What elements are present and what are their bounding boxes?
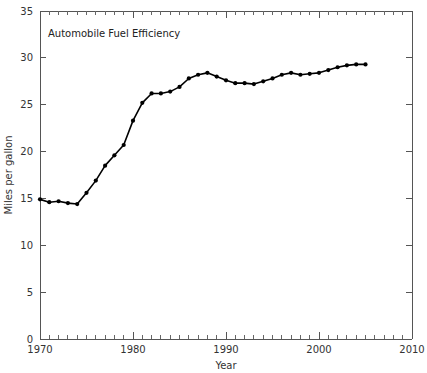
x-tick-label: 1980 <box>120 344 145 355</box>
chart-background <box>0 0 427 373</box>
data-point <box>298 73 302 77</box>
data-point <box>66 201 70 205</box>
data-point <box>122 143 126 147</box>
data-point <box>354 62 358 66</box>
data-point <box>317 71 321 75</box>
data-point <box>196 73 200 77</box>
data-point <box>75 202 79 206</box>
data-point <box>289 71 293 75</box>
data-point <box>131 119 135 123</box>
chart-container: 19701980199020002010 05101520253035 Year… <box>0 0 427 373</box>
data-point <box>112 153 116 157</box>
x-tick-label: 2010 <box>399 344 424 355</box>
data-point <box>38 197 42 201</box>
x-tick-label: 2000 <box>306 344 331 355</box>
data-point <box>57 199 61 203</box>
data-point <box>150 91 154 95</box>
y-tick-label: 30 <box>20 52 33 63</box>
data-point <box>270 76 274 80</box>
data-point <box>187 76 191 80</box>
y-tick-label: 35 <box>20 6 33 17</box>
data-point <box>159 91 163 95</box>
y-tick-label: 20 <box>20 146 33 157</box>
data-point <box>103 164 107 168</box>
data-point <box>336 65 340 69</box>
y-tick-label: 10 <box>20 240 33 251</box>
data-point <box>224 78 228 82</box>
fuel-efficiency-line-chart: 19701980199020002010 05101520253035 Year… <box>0 0 427 373</box>
x-axis-title: Year <box>214 360 237 371</box>
data-point <box>308 72 312 76</box>
y-tick-label: 15 <box>20 193 33 204</box>
y-tick-label: 25 <box>20 99 33 110</box>
data-point <box>326 68 330 72</box>
data-point <box>363 62 367 66</box>
data-point <box>252 82 256 86</box>
x-tick-label: 1970 <box>27 344 52 355</box>
data-point <box>84 191 88 195</box>
data-point <box>345 63 349 67</box>
data-point <box>261 79 265 83</box>
data-point <box>177 85 181 89</box>
data-point <box>205 71 209 75</box>
data-point <box>233 81 237 85</box>
plot-title: Automobile Fuel Efficiency <box>48 28 180 39</box>
data-point <box>47 200 51 204</box>
data-point <box>94 179 98 183</box>
y-tick-label: 5 <box>27 287 33 298</box>
data-point <box>280 73 284 77</box>
data-point <box>215 75 219 79</box>
data-point <box>168 89 172 93</box>
data-point <box>243 81 247 85</box>
y-tick-label: 0 <box>27 334 33 345</box>
data-point <box>140 101 144 105</box>
x-tick-label: 1990 <box>213 344 238 355</box>
y-axis-title: Miles per gallon <box>3 135 14 214</box>
